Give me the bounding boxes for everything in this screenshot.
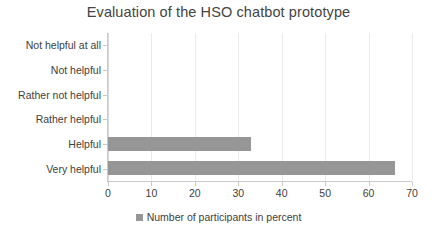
legend-item: Number of participants in percent: [136, 211, 302, 223]
x-axis-tick: [412, 182, 413, 186]
chart-legend: Number of participants in percent: [0, 211, 437, 223]
x-axis-tick: [369, 182, 370, 186]
y-axis-tick: [103, 144, 107, 145]
y-axis-category-label: Not helpful at all: [0, 39, 101, 51]
bar-row: [108, 107, 412, 132]
plot-area: [108, 33, 412, 181]
bar-row: [108, 156, 412, 181]
x-axis-tick: [325, 182, 326, 186]
bar-series: [108, 33, 412, 181]
x-axis-ticks: [108, 182, 412, 186]
x-axis-tick: [151, 182, 152, 186]
y-axis-category-label: Rather helpful: [0, 113, 101, 125]
x-axis-tick-label: 70: [392, 187, 432, 199]
chart-container: Evaluation of the HSO chatbot prototype …: [0, 0, 437, 252]
chart-title: Evaluation of the HSO chatbot prototype: [0, 4, 437, 20]
bar: [108, 161, 395, 175]
y-axis-tick: [103, 45, 107, 46]
x-axis-tick-label: 50: [305, 187, 345, 199]
y-axis-category-label: Not helpful: [0, 64, 101, 76]
x-axis-tick: [282, 182, 283, 186]
gridline: [412, 33, 413, 181]
x-axis-tick-label: 60: [349, 187, 389, 199]
bar-row: [108, 58, 412, 83]
y-axis-tick: [103, 70, 107, 71]
y-axis-category-label: Very helpful: [0, 163, 101, 175]
x-axis-labels: 010203040506070: [108, 187, 412, 201]
y-axis-labels: Not helpful at allNot helpfulRather not …: [0, 33, 101, 181]
y-axis-tick: [103, 95, 107, 96]
x-axis-tick-label: 30: [218, 187, 258, 199]
x-axis-tick-label: 40: [262, 187, 302, 199]
y-axis-category-label: Rather not helpful: [0, 89, 101, 101]
bar-row: [108, 33, 412, 58]
y-axis-category-label: Helpful: [0, 138, 101, 150]
legend-label: Number of participants in percent: [147, 211, 302, 223]
x-axis-tick-label: 20: [175, 187, 215, 199]
x-axis-tick: [195, 182, 196, 186]
bar-row: [108, 132, 412, 157]
x-axis-tick: [238, 182, 239, 186]
y-axis-tick: [103, 119, 107, 120]
x-axis-tick: [108, 182, 109, 186]
y-axis-tick: [103, 169, 107, 170]
bar: [108, 137, 251, 151]
x-axis-tick-label: 10: [131, 187, 171, 199]
legend-swatch-icon: [136, 214, 143, 221]
bar-row: [108, 82, 412, 107]
x-axis-tick-label: 0: [88, 187, 128, 199]
